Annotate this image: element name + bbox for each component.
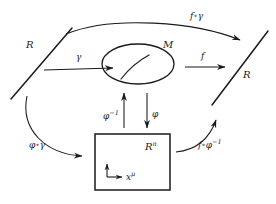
manifold-ellipse (102, 44, 174, 84)
left-r-line (11, 28, 72, 99)
diagram-svg (0, 0, 276, 204)
rn-label-superscript: n (153, 140, 157, 148)
f-compose-gamma-arrow (66, 23, 240, 40)
diagram-canvas: R R M Rn γ f f∘γ φ φ−1 φ∘γ f∘φ−1 xμ (0, 0, 276, 204)
rn-label: Rn (145, 141, 157, 152)
f-label: f (201, 52, 204, 61)
f-compose-phi-inverse-label: f∘φ−1 (198, 139, 222, 150)
phi-compose-gamma-gamma: γ (40, 140, 45, 150)
x-mu-label: xμ (126, 171, 135, 182)
phi-label: φ (152, 110, 158, 119)
phi-compose-gamma-label: φ∘γ (29, 141, 45, 150)
right-r-line (212, 31, 268, 105)
phi-inverse-superscript: −1 (109, 109, 119, 117)
gamma-label: γ (76, 53, 81, 62)
f-compose-gamma-label: f∘γ (190, 12, 203, 21)
left-r-label: R (26, 40, 34, 50)
f-compose-phi-inverse-superscript: −1 (212, 138, 222, 146)
phi-inverse-label: φ−1 (103, 110, 119, 121)
manifold-label-m: M (163, 40, 173, 50)
f-compose-gamma-gamma: γ (198, 11, 203, 21)
right-r-label: R (243, 70, 251, 80)
x-mu-superscript: μ (131, 170, 135, 178)
rn-label-base: R (145, 141, 153, 152)
gamma-curve-inside-manifold (121, 55, 149, 79)
